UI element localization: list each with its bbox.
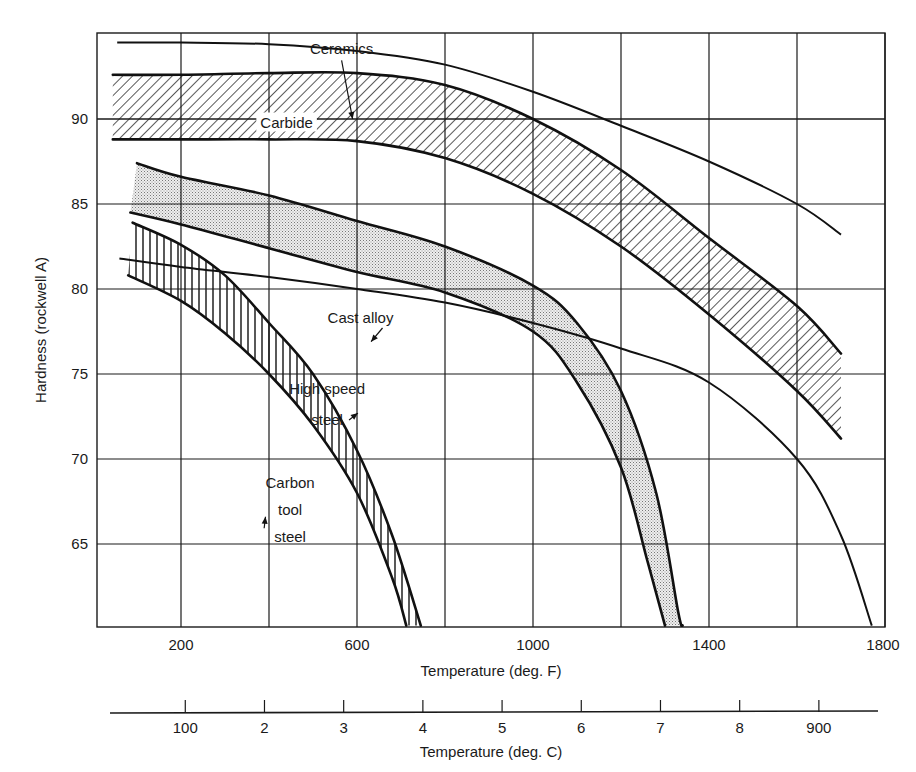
- x-tick-label: 1800: [866, 636, 899, 653]
- celsius-tick-label: 8: [736, 719, 744, 736]
- x-tick-label: 200: [168, 636, 193, 653]
- x-axis-ticks: 200600100014001800: [168, 636, 899, 653]
- y-tick-label: 65: [71, 535, 88, 552]
- y-axis-title: Hardness (rockwell A): [32, 257, 49, 403]
- y-axis-ticks: 657075808590: [71, 110, 88, 552]
- celsius-axis-title: Temperature (deg. C): [420, 743, 563, 760]
- annotation-label: steel: [311, 411, 343, 428]
- celsius-tick-label: 900: [806, 719, 831, 736]
- y-tick-label: 90: [71, 110, 88, 127]
- annotation-label: Ceramics: [310, 40, 373, 57]
- celsius-tick-label: 5: [498, 719, 506, 736]
- celsius-axis-ticks: 1002345678900: [173, 700, 832, 736]
- celsius-tick-label: 2: [260, 719, 268, 736]
- band-layer: [113, 72, 841, 626]
- x-tick-label: 600: [344, 636, 369, 653]
- annotation-label: High speed: [289, 380, 365, 397]
- y-tick-label: 80: [71, 280, 88, 297]
- carbon-tool-steel-band-fill: [128, 223, 421, 626]
- annotation-label: steel: [274, 528, 306, 545]
- celsius-tick-label: 100: [173, 719, 198, 736]
- celsius-tick-label: 6: [577, 719, 585, 736]
- annotation-label: Carbon: [266, 474, 315, 491]
- celsius-tick-label: 4: [419, 719, 427, 736]
- celsius-axis-line: [110, 711, 878, 713]
- celsius-tick-label: 3: [340, 719, 348, 736]
- y-tick-label: 75: [71, 365, 88, 382]
- celsius-tick-label: 7: [656, 719, 664, 736]
- hardness-vs-temperature-chart: CeramicsCarbideCast alloyHigh speedsteel…: [0, 0, 916, 772]
- x-tick-label: 1000: [516, 636, 549, 653]
- annotation-label: tool: [278, 501, 302, 518]
- annotation-label: Cast alloy: [328, 309, 394, 326]
- y-tick-label: 70: [71, 450, 88, 467]
- x-axis-title: Temperature (deg. F): [421, 662, 562, 679]
- arrowhead-icon: [262, 517, 268, 524]
- annotation-label: Carbide: [260, 114, 313, 131]
- x-tick-label: 1400: [692, 636, 725, 653]
- y-tick-label: 85: [71, 195, 88, 212]
